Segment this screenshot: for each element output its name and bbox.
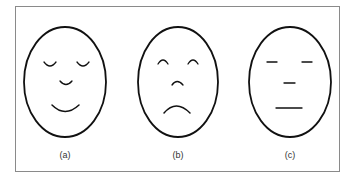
frowning-face-icon bbox=[138, 27, 218, 137]
panel-label-b: (b) bbox=[163, 150, 193, 160]
panel-label-a: (a) bbox=[50, 150, 80, 160]
panel-label-c: (c) bbox=[275, 150, 305, 160]
neutral-face-icon bbox=[249, 27, 331, 137]
smiling-face-icon bbox=[24, 27, 106, 137]
